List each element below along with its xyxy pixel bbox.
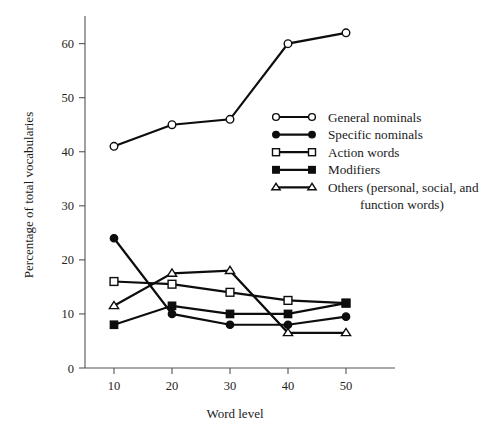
legend-label: General nominals [328, 110, 421, 125]
data-point-open-circle [110, 143, 118, 151]
x-axis-title: Word level [206, 406, 263, 421]
chart-legend: General nominalsSpecific nominalsAction … [272, 110, 479, 212]
data-point-open-square [110, 278, 118, 286]
legend-item[interactable]: Specific nominals [273, 127, 423, 142]
x-tick-label: 40 [282, 379, 295, 393]
data-point-open-circle [226, 116, 234, 124]
x-tick-label: 10 [108, 379, 121, 393]
data-point-filled-square [309, 167, 316, 174]
data-point-filled-square [284, 310, 291, 317]
data-point-filled-square [168, 302, 175, 309]
data-point-filled-circle [110, 235, 117, 242]
legend-item[interactable]: General nominals [273, 110, 422, 125]
series-line [114, 33, 346, 147]
data-point-open-circle [309, 114, 316, 121]
y-tick-label: 50 [62, 91, 75, 105]
legend-label: Others (personal, social, and [328, 180, 479, 195]
data-point-open-square [226, 288, 234, 296]
data-point-open-square [284, 297, 292, 305]
legend-label: Specific nominals [328, 127, 423, 142]
y-tick-label: 20 [62, 253, 75, 267]
chart-figure: 0102030405060 1020304050 Word level Perc… [0, 0, 499, 431]
data-point-filled-square [342, 299, 349, 306]
y-tick-label: 30 [62, 199, 75, 213]
legend-item[interactable]: Modifiers [273, 162, 380, 177]
y-tick-label: 0 [68, 362, 74, 376]
data-point-filled-circle [342, 313, 349, 320]
legend-label-continued: function words) [360, 197, 444, 212]
data-point-filled-square [110, 321, 117, 328]
data-point-open-square [309, 149, 316, 156]
data-point-open-square [273, 149, 280, 156]
legend-item[interactable]: Action words [273, 145, 400, 160]
data-point-open-circle [342, 29, 350, 37]
y-tick-label: 60 [62, 37, 75, 51]
y-tick-label: 40 [62, 145, 75, 159]
y-tick-label: 10 [62, 307, 75, 321]
x-tick-label: 30 [224, 379, 237, 393]
data-point-open-circle [273, 114, 280, 121]
y-axis-ticks: 0102030405060 [62, 37, 86, 375]
data-point-filled-square [226, 310, 233, 317]
data-point-filled-square [273, 167, 280, 174]
data-point-filled-circle [273, 131, 280, 138]
x-tick-label: 50 [340, 379, 353, 393]
legend-label: Action words [328, 145, 399, 160]
data-point-open-square [168, 280, 176, 288]
data-point-filled-circle [168, 310, 175, 317]
data-point-open-circle [284, 40, 292, 48]
line-chart: 0102030405060 1020304050 Word level Perc… [0, 0, 499, 431]
x-tick-label: 20 [166, 379, 179, 393]
data-point-open-circle [168, 121, 176, 129]
series-layer [109, 29, 350, 336]
y-axis-title: Percentage of total vocabularies [21, 112, 36, 278]
x-axis-ticks: 1020304050 [108, 368, 353, 393]
data-point-filled-circle [226, 321, 233, 328]
legend-label: Modifiers [328, 162, 380, 177]
legend-item[interactable]: Others (personal, social, andfunction wo… [272, 180, 479, 212]
series-2 [110, 278, 350, 307]
data-point-filled-circle [309, 131, 316, 138]
